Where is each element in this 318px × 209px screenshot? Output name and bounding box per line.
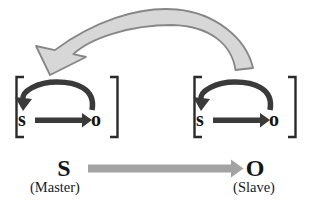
subject-label: s — [18, 108, 26, 130]
slave-label: O — [246, 155, 265, 181]
o-to-s-loop-arrow-icon — [15, 82, 92, 111]
unit-right: s o — [193, 77, 296, 137]
s-to-o-arrow-icon — [35, 113, 92, 128]
arrowhead-icon — [231, 160, 244, 178]
s-to-o-arrow-icon — [213, 113, 270, 128]
object-label: o — [91, 108, 101, 130]
loop-arc — [201, 82, 271, 110]
o-to-s-loop-arrow-icon — [193, 82, 270, 111]
loop-arc — [23, 82, 93, 110]
slave-role-label: (Slave) — [233, 179, 275, 196]
subject-label: s — [196, 108, 204, 130]
master-slave-feedback-diagram: s o s o S O (Master) — [0, 0, 318, 209]
right-bracket-icon — [110, 77, 118, 137]
master-to-slave-arrow-icon — [88, 160, 244, 178]
feedback-arrow-icon — [36, 9, 253, 75]
diagram-canvas: s o s o S O (Master) — [0, 0, 318, 209]
master-label: S — [57, 155, 70, 181]
master-role-label: (Master) — [30, 179, 80, 196]
bottom-relation: S O (Master) (Slave) — [30, 155, 275, 196]
arrow-shaft — [88, 165, 231, 173]
unit-left: s o — [15, 77, 118, 137]
object-label: o — [269, 108, 279, 130]
right-bracket-icon — [288, 77, 296, 137]
arrow-shaft — [35, 118, 82, 124]
arrow-shaft — [213, 118, 260, 124]
